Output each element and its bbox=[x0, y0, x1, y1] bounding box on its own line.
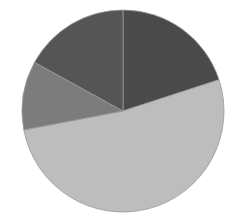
pie-chart bbox=[0, 0, 240, 221]
pie-slices bbox=[22, 10, 224, 212]
